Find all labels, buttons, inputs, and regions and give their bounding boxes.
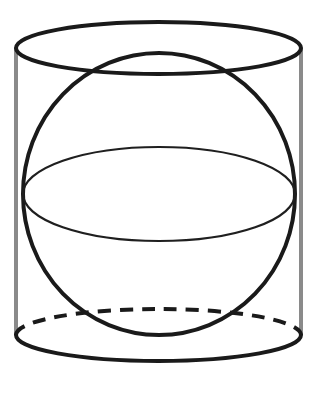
sphere-outline: [23, 53, 295, 335]
cylinder-bottom-front-arc: [16, 335, 301, 361]
geometry-diagram: Sphere inscribed in a cylinder: [0, 0, 318, 393]
cylinder-top-ellipse: [16, 22, 301, 74]
sphere-equator-ellipse: [23, 147, 295, 241]
cylinder-bottom-hidden-arc: [16, 309, 301, 335]
figure-canvas: Sphere inscribed in a cylinder: [0, 0, 318, 393]
